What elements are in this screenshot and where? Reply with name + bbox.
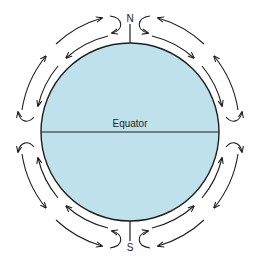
- circulation-diagram: [0, 0, 256, 265]
- north-label: N: [126, 13, 133, 24]
- south-label: S: [127, 242, 134, 253]
- equator-label: Equator: [112, 118, 147, 129]
